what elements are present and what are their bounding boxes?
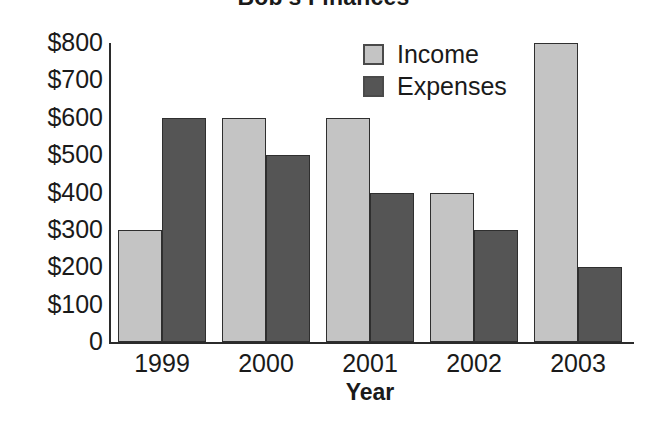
bar-expenses-2000[interactable] [266,155,310,342]
bar-chart: Bob's Finances 0$100$200$300$400$500$600… [0,0,647,424]
legend-label: Expenses [397,74,507,99]
y-axis-tick-label: $200 [3,254,103,279]
chart-legend: IncomeExpenses [363,38,507,102]
x-axis-tick-label: 2001 [310,349,430,377]
legend-swatch-icon [363,44,384,65]
bar-expenses-2002[interactable] [474,230,518,342]
legend-swatch-icon [363,76,384,97]
y-axis-tick-labels: 0$100$200$300$400$500$600$700$800 [0,0,103,424]
bar-income-2001[interactable] [326,118,370,342]
x-axis-tick-label: 2002 [414,349,534,377]
bar-income-2002[interactable] [430,193,474,343]
legend-label: Income [397,42,479,67]
legend-item-expenses[interactable]: Expenses [363,70,507,102]
bar-income-1999[interactable] [118,230,162,342]
bar-income-2003[interactable] [534,43,578,342]
y-axis-tick-label: $700 [3,67,103,92]
x-axis-tick-label: 2000 [206,349,326,377]
y-axis-tick-label: $500 [3,142,103,167]
bar-group [534,43,622,342]
y-axis-tick-label: 0 [3,329,103,354]
y-axis-tick-label: $400 [3,180,103,205]
y-axis-tick-label: $100 [3,292,103,317]
x-axis-title: Year [110,379,630,406]
bar-income-2000[interactable] [222,118,266,342]
y-axis-tick-label: $300 [3,217,103,242]
x-axis-tick-label: 1999 [102,349,222,377]
bar-expenses-2003[interactable] [578,267,622,342]
bar-expenses-1999[interactable] [162,118,206,342]
x-axis-line [109,342,634,344]
bar-expenses-2001[interactable] [370,193,414,343]
y-axis-tick-label: $600 [3,105,103,130]
bar-group [118,43,206,342]
y-axis-tick-label: $800 [3,30,103,55]
bar-group [222,43,310,342]
legend-item-income[interactable]: Income [363,38,507,70]
x-axis-tick-label: 2003 [518,349,638,377]
